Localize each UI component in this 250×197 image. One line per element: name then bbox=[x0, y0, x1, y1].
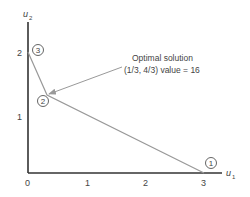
y-axis-label: u bbox=[23, 9, 28, 19]
y-tick-1: 1 bbox=[17, 112, 22, 122]
vertex-3-label: 3 bbox=[36, 46, 41, 55]
x-tick-1: 1 bbox=[85, 178, 90, 188]
annotation-line1: Optimal solution bbox=[132, 53, 193, 63]
x-axis-label: u bbox=[226, 168, 231, 178]
y-axis-subscript: 2 bbox=[29, 15, 33, 21]
x-tick-2: 2 bbox=[143, 178, 148, 188]
vertex-3-marker: 3 bbox=[33, 45, 44, 56]
vertex-1-label: 1 bbox=[209, 159, 214, 168]
vertex-2-marker: 2 bbox=[38, 96, 49, 107]
x-tick-3: 3 bbox=[201, 178, 206, 188]
x-axis-subscript: 1 bbox=[232, 174, 236, 180]
lp-diagram: u 2 u 1 0 1 2 3 1 2 Optimal solution (1/… bbox=[0, 0, 250, 197]
vertex-2-label: 2 bbox=[41, 97, 46, 106]
x-tick-0: 0 bbox=[25, 178, 30, 188]
annotation-line2: (1/3, 4/3) value = 16 bbox=[124, 65, 200, 75]
optimal-arrow bbox=[49, 67, 122, 94]
y-tick-2: 2 bbox=[17, 48, 22, 58]
vertex-1-marker: 1 bbox=[206, 158, 217, 169]
